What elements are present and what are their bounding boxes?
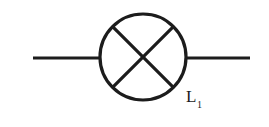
circuit-symbol-svg [0, 0, 269, 127]
lamp-label-base: L [186, 87, 197, 106]
lamp-label-subscript: 1 [197, 99, 202, 110]
lamp-label: L1 [186, 88, 202, 108]
figure-canvas: L1 [0, 0, 269, 127]
